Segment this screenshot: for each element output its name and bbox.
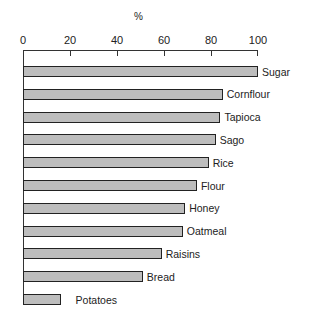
- x-tick-mark: [70, 50, 71, 56]
- bar-label: Flour: [201, 180, 225, 192]
- bar-rice: [23, 157, 209, 168]
- bar-bread: [23, 271, 143, 282]
- x-tick-label: 60: [158, 34, 170, 46]
- bar-oatmeal: [23, 226, 183, 237]
- bar-label: Oatmeal: [187, 225, 227, 237]
- bar-label: Sugar: [262, 66, 290, 78]
- x-tick-label: 100: [249, 34, 267, 46]
- x-tick-mark: [23, 50, 24, 56]
- axis-unit-label: %: [134, 11, 143, 22]
- bar-label: Sago: [220, 134, 245, 146]
- x-tick-mark: [257, 50, 258, 56]
- bar-honey: [23, 203, 185, 214]
- bar-label: Cornflour: [227, 88, 270, 100]
- bar-flour: [23, 180, 197, 191]
- x-tick-label: 20: [64, 34, 76, 46]
- x-axis-line: [23, 50, 258, 51]
- bar-label: Tapioca: [224, 111, 260, 123]
- bar-sago: [23, 134, 216, 145]
- bar-tapioca: [23, 112, 220, 123]
- x-tick-mark: [117, 50, 118, 56]
- x-tick-mark: [164, 50, 165, 56]
- bar-cornflour: [23, 89, 223, 100]
- x-tick-label: 40: [111, 34, 123, 46]
- bar-potatoes: [23, 294, 61, 305]
- x-tick-label: 80: [205, 34, 217, 46]
- x-tick-mark: [211, 50, 212, 56]
- x-tick-label: 0: [20, 34, 26, 46]
- bar-label: Rice: [213, 157, 234, 169]
- bar-sugar: [23, 66, 258, 77]
- bar-raisins: [23, 248, 162, 259]
- bar-label: Potatoes: [76, 294, 117, 306]
- bar-label: Raisins: [166, 248, 200, 260]
- bar-label: Bread: [147, 271, 175, 283]
- bar-label: Honey: [189, 202, 219, 214]
